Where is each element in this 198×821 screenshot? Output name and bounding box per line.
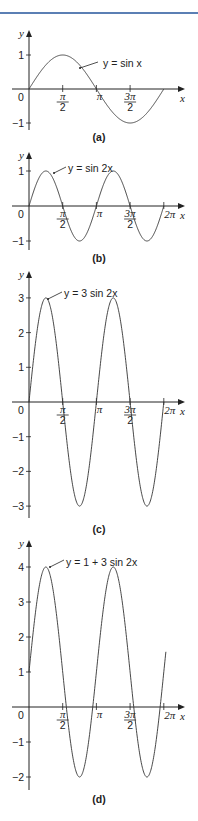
- origin-label: 0: [18, 709, 24, 721]
- y-tick-label: −1: [12, 235, 24, 247]
- y-axis-arrow-icon: [26, 152, 32, 159]
- x-tick-label-pi: π: [97, 90, 103, 102]
- y-tick-label: −1: [12, 117, 24, 129]
- annotation-leader: [54, 167, 66, 173]
- x-tick-label-two-pi: 2π: [164, 404, 176, 416]
- svg-text:2: 2: [127, 101, 133, 113]
- panel-label: (a): [93, 131, 106, 143]
- y-tick-label: 1: [18, 165, 24, 177]
- annotation-leader: [48, 292, 62, 299]
- curve-equation-label: y = sin ​x: [103, 57, 143, 69]
- panel-label: (d): [92, 793, 105, 805]
- x-tick-label-three-half-pi: 3π2: [124, 90, 137, 113]
- y-tick-label: −2: [12, 771, 24, 783]
- y-tick-label: 1: [18, 666, 24, 678]
- x-axis-label: x: [179, 710, 185, 722]
- annotation-point: [47, 298, 49, 300]
- curve-d: [29, 567, 166, 777]
- y-tick-label: −1: [12, 431, 24, 443]
- y-axis-arrow-icon: [26, 540, 32, 547]
- origin-label: 0: [18, 91, 24, 103]
- y-tick-label: −2: [12, 465, 24, 477]
- curve-equation-label: y = sin 2​x: [68, 162, 113, 174]
- x-tick-label-three-half-pi: 3π2: [124, 403, 137, 426]
- y-tick-label: 3: [18, 292, 24, 304]
- svg-text:2: 2: [60, 101, 66, 113]
- origin-label: 0: [18, 404, 24, 416]
- annotation-point: [49, 566, 51, 568]
- origin-label: 0: [18, 208, 24, 220]
- x-tick-label-pi: π: [97, 403, 103, 415]
- y-tick-label: −3: [12, 500, 24, 512]
- x-tick-label-half-pi: π2: [57, 403, 69, 426]
- annotation-leader: [80, 62, 98, 68]
- y-axis-label: y: [18, 27, 24, 39]
- panel-label: (c): [93, 523, 106, 535]
- y-tick-label: 4: [18, 561, 24, 573]
- y-axis-label: y: [18, 268, 24, 280]
- y-axis-label: y: [18, 537, 24, 549]
- svg-text:2: 2: [60, 218, 66, 230]
- y-tick-label: 2: [18, 631, 24, 643]
- annotation-point: [79, 67, 81, 69]
- y-tick-label: 3: [18, 596, 24, 608]
- sine-graphs-figure: yx01−1π2π3π2y = sin ​x(a)yx01−1π2π3π22πy…: [0, 0, 198, 821]
- x-tick-label-half-pi: π2: [57, 90, 69, 113]
- annotation-leader: [50, 560, 64, 567]
- y-tick-label: 1: [18, 49, 24, 61]
- y-tick-label: 2: [18, 327, 24, 339]
- y-tick-label: −1: [12, 736, 24, 748]
- y-axis-arrow-icon: [26, 30, 32, 37]
- svg-text:2: 2: [127, 719, 133, 731]
- x-axis-label: x: [179, 405, 185, 417]
- x-tick-label-two-pi: 2π: [164, 709, 176, 721]
- curve-equation-label: y = 3 sin 2​x: [64, 287, 118, 299]
- x-tick-label-pi: π: [97, 207, 103, 219]
- svg-text:2: 2: [127, 218, 133, 230]
- svg-text:2: 2: [60, 719, 66, 731]
- y-axis-label: y: [18, 149, 24, 161]
- x-tick-label-two-pi: 2π: [164, 208, 176, 220]
- x-axis-label: x: [179, 209, 185, 221]
- curve-equation-label: y = 1 + 3 sin 2​x: [66, 556, 138, 568]
- y-axis-arrow-icon: [26, 271, 32, 278]
- y-tick-label: 1: [18, 361, 24, 373]
- x-tick-label-pi: π: [97, 708, 103, 720]
- x-axis-label: x: [179, 92, 185, 104]
- annotation-point: [53, 172, 55, 174]
- panel-label: (b): [92, 252, 105, 264]
